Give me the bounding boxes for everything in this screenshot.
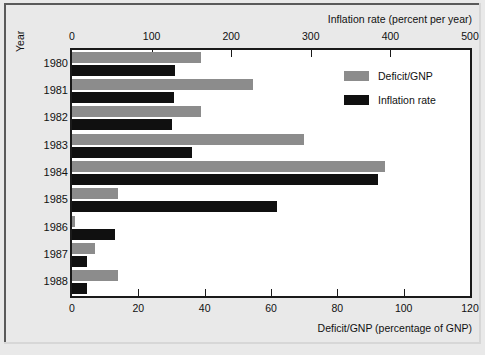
year-label-1982: 1982 (44, 111, 68, 123)
axis-tick-mark (271, 289, 272, 296)
year-label-1988: 1988 (44, 275, 68, 287)
axis-tick-mark (337, 289, 338, 296)
legend-swatch-icon (344, 71, 369, 81)
top-axis-tick-label: 500 (461, 30, 479, 42)
bar-inflation-rate-1988 (72, 283, 87, 294)
legend-item: Deficit/GNP (344, 68, 436, 83)
bar-deficit-gnp-1986 (72, 216, 75, 227)
year-label-1986: 1986 (44, 221, 68, 233)
bottom-axis-tick-label: 20 (132, 302, 144, 314)
axis-tick-mark (311, 50, 312, 57)
top-axis-title: Inflation rate (percent per year) (328, 13, 472, 25)
year-label-1983: 1983 (44, 139, 68, 151)
year-label-1981: 1981 (44, 84, 68, 96)
bar-deficit-gnp-1982 (72, 106, 201, 117)
bar-deficit-gnp-1988 (72, 270, 118, 281)
top-axis-tick-label: 300 (302, 30, 320, 42)
top-axis-tick-label: 100 (143, 30, 161, 42)
top-axis-tick-label: 200 (222, 30, 240, 42)
y-axis-title: Year (14, 31, 26, 52)
bar-deficit-gnp-1980 (72, 52, 201, 63)
bar-inflation-rate-1982 (72, 119, 172, 130)
year-label-1980: 1980 (44, 57, 68, 69)
bottom-axis-tick-label: 60 (265, 302, 277, 314)
bottom-axis-tick-label: 0 (69, 302, 75, 314)
bar-deficit-gnp-1987 (72, 243, 95, 254)
bottom-axis-tick-label: 100 (395, 302, 413, 314)
bar-inflation-rate-1980 (72, 65, 175, 76)
figure-container: Inflation rate (percent per year) Defici… (0, 0, 485, 355)
axis-tick-mark (231, 50, 232, 57)
bottom-axis-tick-label: 40 (199, 302, 211, 314)
bar-deficit-gnp-1983 (72, 134, 304, 145)
bar-inflation-rate-1987 (72, 256, 87, 267)
bottom-axis-tick-label: 120 (461, 302, 479, 314)
top-axis-tick-label: 400 (382, 30, 400, 42)
bar-deficit-gnp-1985 (72, 188, 118, 199)
bar-inflation-rate-1986 (72, 229, 115, 240)
year-label-1987: 1987 (44, 248, 68, 260)
bar-inflation-rate-1984 (72, 174, 378, 185)
year-label-1985: 1985 (44, 193, 68, 205)
axis-tick-mark (205, 289, 206, 296)
bottom-axis-title: Deficit/GNP (percentage of GNP) (318, 322, 472, 334)
legend-item: Inflation rate (344, 92, 436, 107)
axis-tick-mark (138, 289, 139, 296)
legend-swatch-icon (344, 95, 369, 105)
bottom-axis-tick-label: 80 (331, 302, 343, 314)
legend-label: Deficit/GNP (378, 70, 433, 82)
year-label-1984: 1984 (44, 166, 68, 178)
bar-inflation-rate-1981 (72, 92, 174, 103)
top-axis-tick-label: 0 (69, 30, 75, 42)
bar-deficit-gnp-1984 (72, 161, 385, 172)
bar-inflation-rate-1983 (72, 147, 192, 158)
axis-tick-mark (404, 289, 405, 296)
chart-legend: Deficit/GNPInflation rate (344, 68, 436, 116)
legend-label: Inflation rate (378, 94, 436, 106)
axis-tick-mark (390, 50, 391, 57)
bar-deficit-gnp-1981 (72, 79, 253, 90)
bar-inflation-rate-1985 (72, 201, 277, 212)
